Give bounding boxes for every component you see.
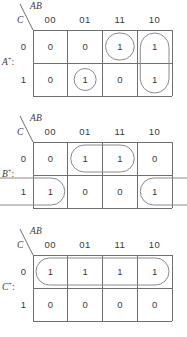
cell-r0-c1: 1 [82, 154, 87, 164]
row-header-0: 0 [21, 42, 26, 52]
kmap-figure: { "figure": { "title": "Karnaugh maps fo… [0, 0, 187, 337]
column-header-10: 10 [149, 240, 161, 250]
cell-r1-c3: 0 [152, 300, 157, 310]
cell-r0-c0: 0 [48, 42, 53, 52]
cell-r1-c3: 1 [152, 75, 157, 85]
axis-label-ab: AB [30, 2, 42, 12]
column-header-11: 11 [114, 127, 125, 137]
cell-r0-c2: 1 [117, 42, 122, 52]
cell-r1-c0: 0 [48, 75, 53, 85]
cell-r0-c0: 1 [48, 267, 53, 277]
kmap-a-plus: ABC0001111001A+:00110101 [0, 0, 187, 112]
cell-r0-c3: 1 [152, 267, 157, 277]
axis-label-c: C [17, 128, 23, 138]
column-header-01: 01 [79, 127, 91, 137]
column-header-11: 11 [114, 240, 125, 250]
row-header-1: 1 [21, 300, 26, 310]
axis-label-ab: AB [30, 114, 42, 124]
column-header-00: 00 [45, 15, 57, 25]
axis-label-c: C [17, 16, 23, 26]
map-name-a-plus: A+: [2, 58, 14, 68]
cell-r1-c1: 0 [82, 300, 87, 310]
cell-r1-c0: 0 [48, 300, 53, 310]
column-header-10: 10 [149, 15, 161, 25]
column-header-01: 01 [79, 15, 91, 25]
row-header-1: 1 [21, 75, 26, 85]
row-header-0: 0 [21, 154, 26, 164]
kmap-b-plus: ABC0001111001B+:01101001 [0, 112, 187, 224]
cell-r0-c2: 1 [117, 154, 122, 164]
row-header-0: 0 [21, 267, 26, 277]
group-wrap-right-1 [140, 178, 187, 205]
cell-r0-c2: 1 [117, 267, 122, 277]
cell-r1-c2: 0 [117, 187, 122, 197]
column-header-11: 11 [114, 15, 125, 25]
column-header-10: 10 [149, 127, 161, 137]
cell-r1-c1: 0 [82, 187, 87, 197]
cell-r1-c3: 1 [152, 187, 157, 197]
column-header-00: 00 [45, 240, 57, 250]
cell-r0-c3: 1 [152, 42, 157, 52]
cell-r0-c3: 0 [152, 154, 157, 164]
map-name-b-plus: B+: [2, 170, 14, 180]
kmap-c-plus: ABC0001111001C+:11110000 [0, 225, 187, 337]
cell-r1-c2: 0 [117, 300, 122, 310]
cell-r0-c1: 1 [82, 267, 87, 277]
cell-r0-c0: 0 [48, 154, 53, 164]
group-wrap-left-1 [0, 178, 65, 205]
cell-r0-c1: 0 [82, 42, 87, 52]
axis-label-ab: AB [30, 227, 42, 237]
column-header-00: 00 [45, 127, 57, 137]
map-name-colon: : [12, 282, 15, 292]
map-name-colon: : [11, 57, 14, 67]
cell-r1-c2: 0 [117, 75, 122, 85]
axis-label-c: C [17, 241, 23, 251]
column-header-01: 01 [79, 240, 91, 250]
map-name-c-plus: C+: [2, 283, 15, 293]
row-header-1: 1 [21, 187, 26, 197]
map-name-colon: : [11, 169, 14, 179]
cell-r1-c1: 1 [82, 75, 87, 85]
cell-r1-c0: 1 [48, 187, 53, 197]
